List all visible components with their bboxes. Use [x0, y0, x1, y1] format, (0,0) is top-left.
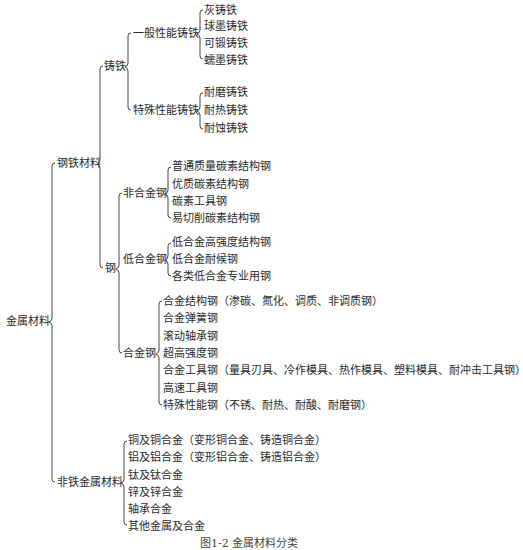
leaf-item: 合金工具钢（量具刃具、冷作模具、热作模具、塑料模具、耐冲击工具钢）: [163, 364, 523, 377]
leaf-item: 耐蚀铸铁: [204, 122, 248, 135]
leaf-item: 铝及铝合金（变形铝合金、铸造铝合金）: [128, 451, 326, 464]
leaf-item: 普通质量碳素结构钢: [172, 160, 271, 173]
leaf-item: 特殊性能钢（不锈、耐热、耐酸、耐磨钢）: [163, 399, 372, 412]
leaf-item: 低合金耐候钢: [172, 253, 238, 266]
leaf-item: 钛及钛合金: [128, 469, 183, 482]
leaf-item: 高速工具钢: [163, 382, 218, 395]
node-metal-materials: 金属材料: [6, 315, 50, 328]
leaf-item: 优质碳素结构钢: [172, 178, 249, 191]
leaf-item: 易切削碳素结构钢: [172, 212, 260, 225]
node-low-alloy-steel: 低合金钢: [123, 253, 167, 266]
leaf-item: 蠕墨铸铁: [204, 54, 248, 67]
leaf-item: 铜及铜合金（变形铜合金、铸造铜合金）: [128, 434, 326, 447]
leaf-item: 球墨铸铁: [204, 20, 248, 33]
leaf-item: 可锻铸铁: [204, 37, 248, 50]
leaf-item: 各类低合金专业用钢: [172, 270, 271, 283]
node-cast-iron: 铸铁: [104, 60, 126, 73]
node-non-alloy-steel: 非合金钢: [123, 187, 167, 200]
leaf-item: 其他金属及合金: [128, 520, 205, 533]
node-general-cast-iron: 一般性能铸铁: [133, 27, 199, 40]
node-special-cast-iron: 特殊性能铸铁: [133, 104, 199, 117]
leaf-item: 合金弹簧钢: [163, 312, 218, 325]
leaf-item: 锌及锌合金: [128, 486, 183, 499]
leaf-item: 灰铸铁: [204, 4, 237, 17]
leaf-item: 碳素工具钢: [172, 195, 227, 208]
leaf-item: 耐热铸铁: [204, 104, 248, 117]
node-steel: 钢: [105, 262, 116, 275]
leaf-item: 低合金高强度结构钢: [172, 236, 271, 249]
node-ferrous-materials: 钢铁材料: [57, 157, 101, 170]
leaf-item: 耐磨铸铁: [204, 86, 248, 99]
figure-caption: 图1-2 金属材料分类: [200, 534, 298, 550]
leaf-item: 超高强度钢: [163, 347, 218, 360]
leaf-item: 轴承合金: [128, 503, 172, 516]
node-alloy-steel: 合金钢: [123, 347, 156, 360]
leaf-item: 滚动轴承钢: [163, 330, 218, 343]
node-nonferrous-materials: 非铁金属材料: [57, 476, 123, 489]
leaf-item: 合金结构钢（渗碳、氮化、调质、非调质钢）: [163, 295, 383, 308]
